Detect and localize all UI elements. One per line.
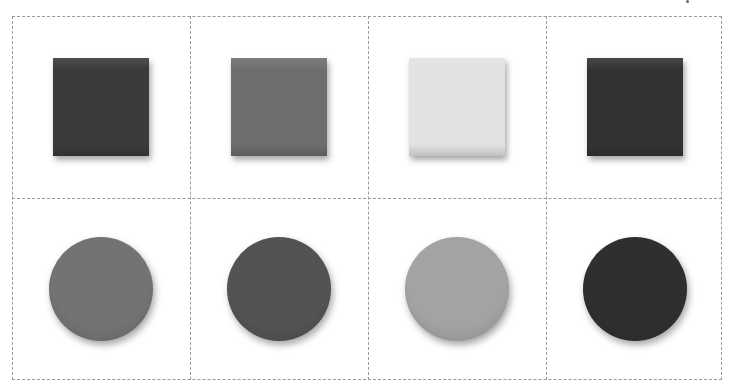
circle-swatch-light xyxy=(405,237,509,341)
circle-swatch-medium xyxy=(49,237,153,341)
cell-r2-c4 xyxy=(546,198,724,380)
square-swatch-darkest xyxy=(587,58,683,156)
cell-r2-c2 xyxy=(190,198,368,380)
swatch-board xyxy=(0,0,730,386)
cell-r1-c1 xyxy=(12,16,190,198)
square-swatch-medium xyxy=(231,58,327,156)
cell-r2-c3 xyxy=(368,198,546,380)
circle-swatch-darkest xyxy=(583,237,687,341)
cell-r2-c1 xyxy=(12,198,190,380)
square-swatch-light xyxy=(409,58,505,156)
square-swatch-dark xyxy=(53,58,149,156)
cell-r1-c3 xyxy=(368,16,546,198)
cell-r1-c4 xyxy=(546,16,724,198)
circle-swatch-dark xyxy=(227,237,331,341)
corner-mark xyxy=(686,0,689,3)
cell-r1-c2 xyxy=(190,16,368,198)
